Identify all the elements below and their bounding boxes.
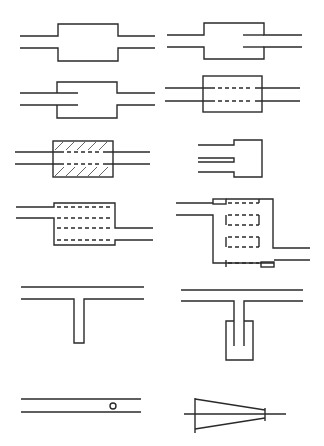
simple-expansion-chamber xyxy=(20,24,155,61)
offset-perforated-multi-tube-chamber xyxy=(16,203,153,245)
quarter-wave-side-branch xyxy=(21,287,144,343)
perforated-tube-chamber xyxy=(165,76,300,112)
absorptive-perforated-chamber xyxy=(15,141,150,177)
silencer-diagram-grid xyxy=(0,0,324,446)
pipe-with-orifice-hole xyxy=(21,399,141,412)
expansion-chamber-extended-inlet xyxy=(20,82,155,118)
closed-end-extended-pipe-chamber xyxy=(198,140,262,177)
expansion-chamber-extended-outlet xyxy=(167,23,302,59)
conical-diffuser xyxy=(184,398,286,433)
helmholtz-resonator-side-branch xyxy=(181,290,303,360)
orifice-hole-icon xyxy=(110,403,116,409)
multi-chamber-reversing-perforated xyxy=(176,199,310,267)
